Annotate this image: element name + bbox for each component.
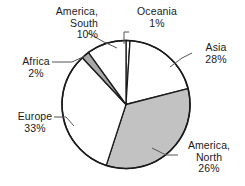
pie-label-oceania-line1: Oceania [128,6,186,18]
pie-label-oceania-value: 1% [128,18,186,30]
pie-label-america-north-value: 26% [178,163,240,175]
pie-label-africa-value: 2% [8,68,64,80]
pie-label-america-south-line1: America, [26,6,98,18]
pie-label-europe-line1: Europe [6,111,64,123]
pie-label-america-south: America, South 10% [26,6,98,41]
pie-label-europe: Europe 33% [6,111,64,134]
leader-line-asia [170,53,192,67]
pie-label-asia-value: 28% [194,54,238,66]
pie-label-europe-value: 33% [6,123,64,135]
pie-label-america-north: America, North 26% [178,140,240,175]
pie-label-oceania: Oceania 1% [128,6,186,29]
pie-label-africa-line1: Africa [8,56,64,68]
pie-label-asia-line1: Asia [194,42,238,54]
pie-chart: America, South 10% Africa 2% Europe 33% … [0,0,245,186]
pie-label-africa: Africa 2% [8,56,64,79]
pie-label-america-south-value: 10% [26,29,98,41]
pie-label-america-north-line1: America, [178,140,240,152]
pie-label-asia: Asia 28% [194,42,238,65]
